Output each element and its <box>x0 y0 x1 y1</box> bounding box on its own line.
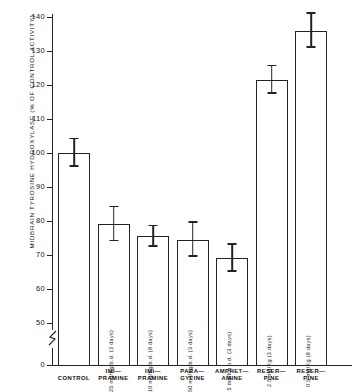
y-axis-tick-label: 130 <box>31 46 45 55</box>
bar[interactable]: 0.5 mg/Kg (8 days) <box>295 31 327 365</box>
category-label-line1: IMI— <box>132 368 174 376</box>
error-bar-cap-bottom <box>267 92 276 94</box>
error-bar <box>310 14 312 48</box>
category-label-line1: AMPHET— <box>211 368 253 376</box>
error-bar-cap-top <box>149 225 158 227</box>
y-axis-tick-label: 90 <box>36 182 45 191</box>
error-bar <box>192 223 194 257</box>
bar[interactable]: 2.5 mg/Kg (3 days) <box>256 80 288 365</box>
category-label-line2: PRAMINE <box>93 375 135 383</box>
error-bar-cap-bottom <box>228 270 237 272</box>
bar-group: 25 mg/Kg b.d. (3 days) <box>98 224 130 365</box>
bar[interactable]: 10 mg/Kg b.d. (8 days) <box>137 236 169 365</box>
category-label-line2: PINE <box>251 375 293 383</box>
bar-group <box>58 153 90 365</box>
category-label-line2: PRAMINE <box>132 375 174 383</box>
y-axis-tick-label: 80 <box>36 216 45 225</box>
bar[interactable]: 50 mg/Kg b.d. (3 days) <box>177 240 209 365</box>
bar-group: 10 mg/Kg b.d. (8 days) <box>137 236 169 365</box>
x-axis-category-label: IMI—PRAMINE <box>132 368 174 383</box>
bar[interactable]: 5 mg/Kg b.d. (3 days) <box>216 258 248 365</box>
bar-group: 2.5 mg/Kg (3 days) <box>256 80 288 365</box>
category-label-line1: IMI— <box>93 368 135 376</box>
category-label-line1: PARA— <box>172 368 214 376</box>
bar-group: 50 mg/Kg b.d. (3 days) <box>177 240 209 365</box>
x-axis-category-label: RESER—PINE <box>290 368 332 383</box>
y-axis-tick-group: 14013012011010090807060500 <box>0 0 52 386</box>
category-label-line1: CONTROL <box>53 375 95 383</box>
y-axis-tick-label: 120 <box>31 80 45 89</box>
category-label-line2: PINE <box>290 375 332 383</box>
error-bar <box>231 245 233 272</box>
error-bar-cap-bottom <box>188 255 197 257</box>
error-bar-cap-top <box>267 65 276 67</box>
y-axis-tick-label: 50 <box>36 318 45 327</box>
category-label-line1: RESER— <box>290 368 332 376</box>
error-bar-cap-top <box>70 138 79 140</box>
category-label-line1: RESER— <box>251 368 293 376</box>
error-bar <box>113 207 115 241</box>
error-bar-cap-top <box>307 12 316 14</box>
error-bar <box>73 139 75 166</box>
x-axis-category-label: IMI—PRAMINE <box>93 368 135 383</box>
y-axis-tick-label: 110 <box>32 114 45 123</box>
error-bar-cap-top <box>228 243 237 245</box>
error-bar-cap-bottom <box>109 240 118 242</box>
y-axis-tick-label: 100 <box>31 148 45 157</box>
y-axis-tick-label: 140 <box>31 12 45 21</box>
x-axis-category-label: RESER—PINE <box>251 368 293 383</box>
bar[interactable]: 25 mg/Kg b.d. (3 days) <box>98 224 130 365</box>
x-axis-category-label: PARA—GYLINE <box>172 368 214 383</box>
category-label-line2: GYLINE <box>172 375 214 383</box>
x-axis-category-label: CONTROL <box>53 375 95 383</box>
error-bar-cap-top <box>188 221 197 223</box>
bar-group: 0.5 mg/Kg (8 days) <box>295 31 327 365</box>
bar[interactable] <box>58 153 90 365</box>
category-label-line2: AMINE <box>211 375 253 383</box>
y-axis-tick-label: 60 <box>36 284 45 293</box>
plot-area: CONTROL25 mg/Kg b.d. (3 days)IMI—PRAMINE… <box>52 0 356 386</box>
y-axis-tick-label: 70 <box>36 250 45 259</box>
error-bar-cap-bottom <box>70 165 79 167</box>
error-bar-cap-bottom <box>307 46 316 48</box>
error-bar-cap-top <box>109 206 118 208</box>
error-bar-cap-bottom <box>149 245 158 247</box>
error-bar <box>271 66 273 93</box>
x-axis-category-label: AMPHET—AMINE <box>211 368 253 383</box>
error-bar <box>152 226 154 246</box>
bar-group: 5 mg/Kg b.d. (3 days) <box>216 258 248 365</box>
y-axis-tick-label: 0 <box>40 360 45 369</box>
